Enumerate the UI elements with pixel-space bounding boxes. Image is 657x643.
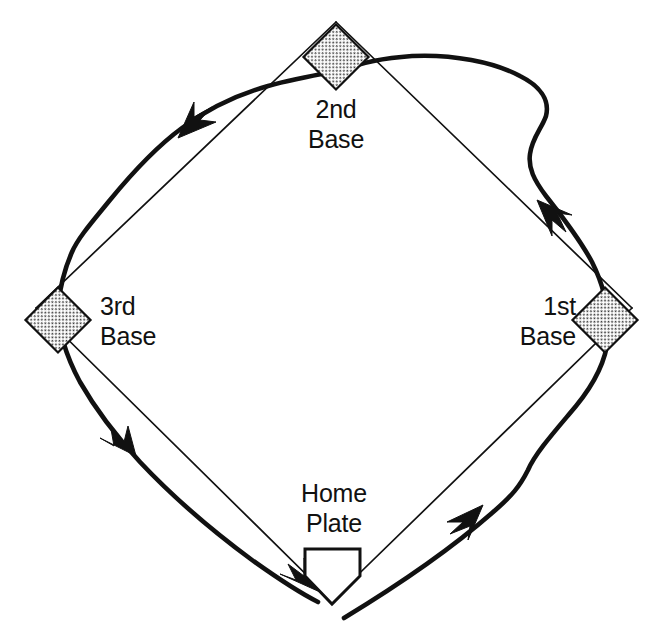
home-plate-pentagon <box>305 549 360 604</box>
arrow-third-to-home <box>100 426 136 456</box>
label-home-plate: Home Plate <box>301 479 367 537</box>
second-base-label-line1: 2nd <box>315 95 356 123</box>
label-first-base: 1st Base <box>520 292 576 350</box>
arrow-second-to-third <box>178 102 216 138</box>
running-path-home-to-first <box>344 338 608 618</box>
baseline-second-to-third <box>36 22 336 308</box>
baseball-diamond-diagram: 2nd Base 3rd Base 1st Base Home Plate <box>0 0 657 643</box>
first-base-marker <box>572 287 637 352</box>
home-plate-label-line1: Home <box>301 479 367 507</box>
running-path-second-to-third <box>58 70 344 306</box>
baseline-third-to-home <box>36 308 332 600</box>
second-base-label-line2: Base <box>308 125 364 153</box>
first-base-square <box>572 287 637 352</box>
label-second-base: 2nd Base <box>308 95 364 153</box>
baseline-home-to-first <box>332 308 632 600</box>
third-base-label-line1: 3rd <box>100 292 136 320</box>
third-base-square <box>25 287 90 352</box>
running-path-third-to-home <box>58 306 318 602</box>
home-plate-label-line2: Plate <box>306 509 362 537</box>
second-base-marker <box>303 24 368 89</box>
first-base-label-line2: Base <box>520 322 576 350</box>
second-base-square <box>303 24 368 89</box>
home-plate-marker <box>305 549 360 604</box>
third-base-marker <box>25 287 90 352</box>
diagram-canvas: 2nd Base 3rd Base 1st Base Home Plate <box>0 0 657 643</box>
label-third-base: 3rd Base <box>100 292 156 350</box>
first-base-label-line1: 1st <box>543 292 576 320</box>
third-base-label-line2: Base <box>100 322 156 350</box>
